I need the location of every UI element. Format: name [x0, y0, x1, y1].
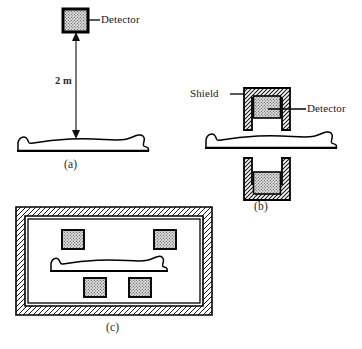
detector-bottom-left-c	[84, 278, 106, 297]
subject-silhouette-c	[51, 256, 167, 271]
detector-label-a: Detector	[101, 13, 140, 25]
subject-silhouette-b	[206, 132, 337, 148]
detector-square-a	[63, 9, 88, 32]
detector-upper-b	[254, 96, 281, 118]
panel-caption-a: (a)	[64, 158, 77, 170]
shield-label-b: Shield	[190, 87, 219, 99]
detector-top-right-c	[154, 230, 176, 249]
distance-arrow-head-bottom-a	[72, 130, 80, 139]
panel-c-graphic	[8, 200, 238, 349]
subject-body-b	[205, 132, 337, 148]
panel-caption-b: (b)	[254, 200, 268, 212]
subject-body-c	[50, 256, 168, 271]
distance-label-a: 2 m	[55, 75, 72, 86]
panel-caption-c: (c)	[106, 321, 119, 333]
detector-top-left-c	[62, 230, 84, 249]
detector-lower-b	[254, 172, 281, 194]
panel-c: (c)	[8, 200, 238, 349]
subject-silhouette-a	[18, 135, 149, 151]
subject-body-a	[17, 135, 149, 151]
distance-arrow-a	[72, 32, 80, 139]
panel-a: Detector 2 m (a)	[0, 0, 185, 185]
detector-bottom-right-c	[129, 278, 151, 297]
panel-a-graphic	[0, 0, 185, 185]
panel-b-graphic	[196, 76, 362, 214]
detector-a	[63, 9, 88, 32]
detector-label-b: Detector	[307, 102, 346, 114]
figure-root: Detector 2 m (a)	[0, 0, 362, 349]
panel-b: Shield Detector (b)	[196, 76, 362, 214]
